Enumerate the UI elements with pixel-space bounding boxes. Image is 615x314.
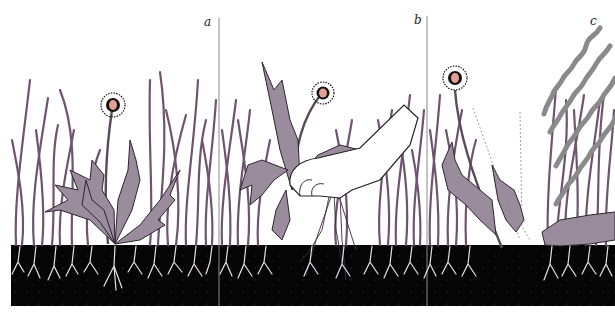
illustration-canvas [0,0,615,314]
flower-head-icon [443,66,467,90]
leaf [272,190,290,240]
panel-label-c: c [590,14,597,28]
soil-band [11,245,615,306]
flower-head-icon [101,93,125,117]
leaf [542,212,615,246]
illustration-figure: a b c [0,0,615,314]
panel-label-a: a [204,15,211,29]
flower-head-icon [312,82,334,104]
dandelion-panel-c [442,28,615,248]
panel-label-b: b [414,13,422,27]
dandelion-panel-a [45,93,180,244]
leaf [45,160,115,244]
leaf [240,160,288,205]
